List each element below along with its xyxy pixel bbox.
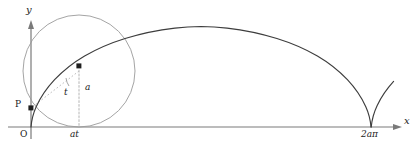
diagram-canvas [0,0,419,150]
x-axis [8,124,402,130]
y-axis-label: y [26,5,32,15]
angle-arc-t [66,78,69,86]
angle-t-label: t [64,88,68,97]
point-p-marker [28,105,33,110]
arch-end-label: 2aπ [361,130,378,139]
point-on-circle-marker [76,63,81,68]
point-p-label: P [15,100,21,109]
cycloid-diagram: y x O P t a at 2aπ [0,0,419,150]
cycloid-next-arch-stub [371,81,393,127]
y-axis [28,20,34,139]
x-axis-label: x [404,116,410,126]
cycloid-curve [31,27,371,128]
foot-at-label: at [70,130,79,139]
origin-label: O [20,130,27,139]
radius-a-label: a [85,83,90,92]
